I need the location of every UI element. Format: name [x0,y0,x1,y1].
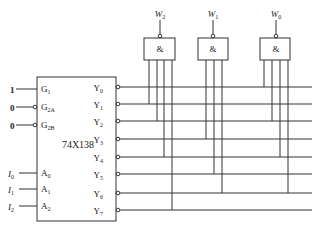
and-gate-w2: W2 & [144,9,175,210]
output-y5: Y5 [94,170,313,181]
output-y1: Y1 [94,100,313,111]
svg-text:Y1: Y1 [94,100,104,111]
svg-text:W2: W2 [155,9,166,20]
and-gate-w0: W0 & [260,9,290,193]
svg-text:I2: I2 [7,202,14,213]
svg-text:&: & [156,44,163,54]
input-g2a: 0 G2A [10,102,56,113]
inversion-bubble [274,34,278,38]
input-a0: I0 A0 [7,168,51,180]
svg-text:A0: A0 [41,168,51,179]
output-y0: Y0 [94,83,313,94]
svg-text:G1: G1 [41,84,51,95]
svg-text:I0: I0 [7,169,14,180]
svg-text:Y5: Y5 [94,170,104,181]
input-a2: I2 A2 [7,201,51,213]
svg-text:Y0: Y0 [94,83,104,94]
svg-text:Y2: Y2 [94,117,104,128]
and-gate-w1: W1 & [198,9,228,193]
svg-text:Y6: Y6 [94,189,104,200]
decoder-circuit-diagram: 74X138 1 G1 0 G2A 0 G2B I0 A0 I1 A1 I2 A… [0,0,320,232]
svg-text:A2: A2 [41,201,51,212]
output-y4: Y4 [94,153,313,164]
svg-text:0: 0 [10,103,15,113]
svg-text:1: 1 [10,85,15,95]
svg-text:Y3: Y3 [94,135,104,146]
svg-text:I1: I1 [7,185,14,196]
svg-text:G2B: G2B [41,120,55,131]
svg-text:&: & [272,44,279,54]
inversion-bubble [158,34,162,38]
inversion-bubble [33,123,37,127]
inversion-bubble [211,34,215,38]
inversion-bubble [33,105,37,109]
svg-text:W1: W1 [208,9,219,20]
svg-text:&: & [209,44,216,54]
input-a1: I1 A1 [7,184,51,196]
input-g1: 1 G1 [10,84,51,95]
svg-text:Y7: Y7 [94,206,104,217]
output-y6: Y6 [94,189,313,200]
svg-text:Y4: Y4 [94,153,104,164]
output-y7: Y7 [94,206,313,217]
input-g2b: 0 G2B [10,120,55,131]
output-y2: Y2 [94,117,313,128]
output-y3: Y3 [94,135,313,146]
decoder-chip-label: 74X138 [62,139,94,150]
svg-text:G2A: G2A [41,102,56,113]
svg-text:W0: W0 [271,9,282,20]
svg-text:0: 0 [10,121,15,131]
svg-text:A1: A1 [41,184,51,195]
